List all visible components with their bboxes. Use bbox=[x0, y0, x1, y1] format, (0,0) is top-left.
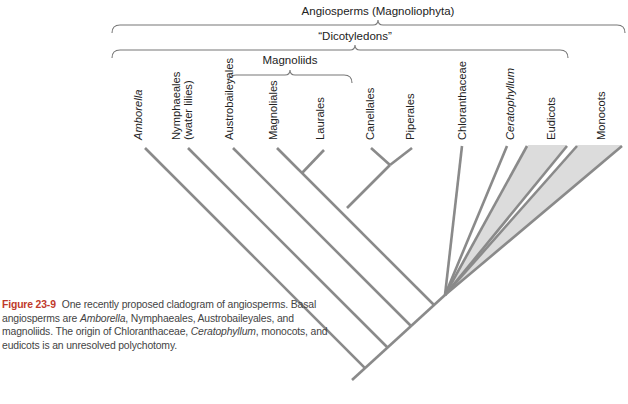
brace-magnoliids bbox=[228, 70, 352, 83]
branch-canellales bbox=[371, 148, 390, 165]
branch-magnoliales bbox=[277, 148, 434, 305]
taxon-label-nymphaeales: Nymphaeales bbox=[170, 71, 182, 140]
taxon-label-canellales: Canellales bbox=[364, 87, 376, 140]
group-label-dicotyledons: “Dicotyledons” bbox=[318, 30, 392, 42]
brace-dicotyledons bbox=[112, 45, 568, 58]
branch-spine bbox=[352, 295, 445, 380]
taxon-label-magnoliales: Magnoliales bbox=[267, 80, 279, 140]
taxon-label-eudicots: Eudicots bbox=[545, 97, 557, 140]
taxon-label-monocots: Monocots bbox=[595, 91, 607, 140]
branch-laurales bbox=[302, 150, 324, 173]
taxon-label-piperales: Piperales bbox=[404, 93, 416, 140]
taxon-label-nymphaeales-note: (water lilies) bbox=[182, 80, 194, 140]
taxon-label-austrobaileyales: Austrobaileyales bbox=[223, 58, 235, 140]
taxon-label-amborella: Amborella bbox=[132, 90, 144, 141]
group-label-magnoliids: Magnoliids bbox=[263, 54, 318, 66]
group-label-angiosperms: Angiosperms (Magnoliophyta) bbox=[302, 5, 455, 17]
taxon-label-chloranthaceae: Chloranthaceae bbox=[456, 61, 468, 140]
taxon-label-ceratophyllum: Ceratophyllum bbox=[504, 68, 516, 140]
figure-number: Figure 23-9 bbox=[2, 299, 56, 310]
caption-italic-amborella: Amborella bbox=[80, 313, 125, 324]
branch-piperales bbox=[390, 148, 412, 165]
branch-canellales-piperales-stem bbox=[347, 165, 390, 208]
caption-italic-ceratophyllum: Ceratophyllum bbox=[191, 326, 256, 337]
taxon-label-laurales: Laurales bbox=[314, 97, 326, 140]
branch-monocots-left bbox=[445, 146, 577, 295]
figure-caption: Figure 23-9One recently proposed cladogr… bbox=[2, 298, 332, 352]
